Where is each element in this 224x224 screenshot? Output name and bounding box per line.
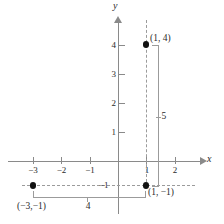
x-axis-label: x <box>207 153 211 164</box>
point-1-neg1-label: (1, −1) <box>148 187 174 197</box>
y-tick-label-2: 2 <box>102 98 116 108</box>
y-tick-label-3: 3 <box>102 69 116 79</box>
y-tick-1 <box>118 132 125 133</box>
y-axis-label: y <box>113 0 117 11</box>
y-tick-label-neg1: −1 <box>99 180 109 190</box>
x-tick-label-1: 1 <box>137 165 157 175</box>
vertical-measure-cap-top <box>152 45 159 46</box>
horizontal-measure-label: 4 <box>81 201 95 211</box>
y-tick-4 <box>118 45 125 46</box>
vertical-measure-bracket <box>158 45 159 186</box>
point-neg3-neg1-label: (−3,−1) <box>17 201 46 211</box>
x-tick-label-2: 2 <box>165 165 185 175</box>
point-1-4 <box>143 41 149 47</box>
vertical-measure-tick <box>156 117 161 118</box>
horizontal-measure-bracket <box>33 197 146 198</box>
y-axis-arrow-icon <box>114 16 122 23</box>
x-tick-neg2 <box>61 157 62 164</box>
x-tick-label-neg2: −2 <box>52 165 72 175</box>
vertical-measure-label: 5 <box>162 111 167 121</box>
x-tick-neg1 <box>90 157 91 164</box>
x-tick-neg3 <box>33 157 34 164</box>
y-tick-label-1: 1 <box>102 127 116 137</box>
point-neg3-neg1 <box>30 182 36 188</box>
vertical-measure-cap-bottom <box>152 186 159 187</box>
graph-figure: x y −3 −2 −1 1 2 1 2 3 4 −1 (1, 4) (1, −… <box>0 0 224 224</box>
x-axis-arrow-icon <box>200 157 207 165</box>
point-1-4-label: (1, 4) <box>150 33 171 43</box>
x-tick-2 <box>175 157 176 164</box>
horizontal-measure-cap-left <box>33 191 34 197</box>
y-tick-label-4: 4 <box>102 40 116 50</box>
y-tick-2 <box>118 103 125 104</box>
x-tick-label-neg1: −1 <box>80 165 100 175</box>
y-tick-3 <box>118 74 125 75</box>
x-tick-label-neg3: −3 <box>23 165 43 175</box>
horizontal-measure-cap-right <box>145 191 146 197</box>
